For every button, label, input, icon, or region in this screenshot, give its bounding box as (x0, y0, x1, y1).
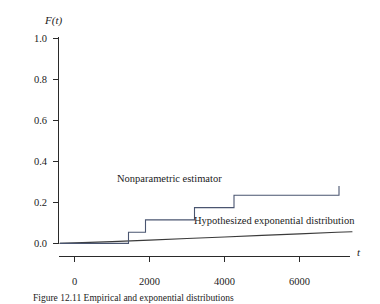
x-tick-label: 0 (72, 276, 77, 287)
figure-container: F(t) 1.0 0.8 0.6 0.4 0.2 0.0 t (0, 0, 380, 304)
y-tick-label: 0.6 (34, 115, 47, 126)
figure-caption: Figure 12.11 Empirical and exponential d… (33, 293, 234, 303)
y-tick-label: 0.2 (34, 197, 47, 208)
x-tick-label: 2000 (139, 276, 160, 287)
y-tick-label: 0.4 (34, 156, 48, 167)
y-axis-title: F(t) (44, 14, 62, 27)
nonparametric-estimator-label: Nonparametric estimator (117, 173, 222, 184)
x-tick-labels: 0 2000 4000 6000 (72, 276, 310, 287)
x-tick-label: 6000 (289, 276, 310, 287)
y-tick-label: 0.8 (34, 74, 47, 85)
x-tick-label: 4000 (214, 276, 235, 287)
y-tick-label: 0.0 (34, 238, 47, 249)
hypothesized-exponential-label: Hypothesized exponential distribution (194, 215, 355, 226)
y-tick-label: 1.0 (34, 33, 47, 44)
cdf-comparison-chart: F(t) 1.0 0.8 0.6 0.4 0.2 0.0 t (0, 0, 380, 304)
x-tick-marks (75, 257, 300, 263)
y-tick-labels: 1.0 0.8 0.6 0.4 0.2 0.0 (34, 33, 48, 249)
y-tick-marks (53, 39, 59, 244)
hypothesized-exponential-curve (60, 232, 352, 244)
x-axis-title: t (357, 246, 361, 258)
